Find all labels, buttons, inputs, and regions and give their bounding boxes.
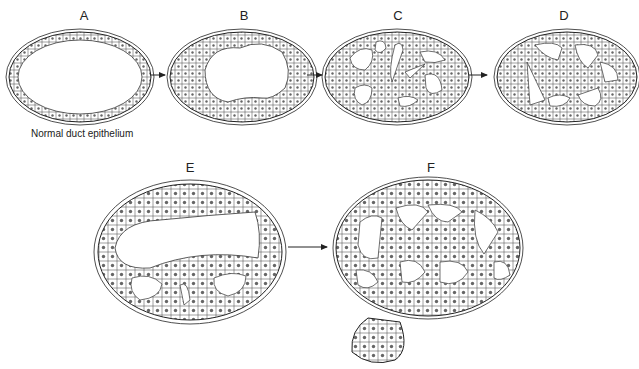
panel-d-label: D (554, 8, 574, 23)
panel-f-label: F (421, 160, 441, 175)
panel-b (167, 29, 317, 125)
panel-c (322, 29, 472, 125)
duct-progression-diagram (0, 0, 639, 369)
panel-e (94, 180, 286, 324)
panel-b-label: B (234, 8, 254, 23)
panel-f (333, 177, 523, 363)
panel-a (6, 29, 154, 125)
panel-a-caption: Normal duct epithelium (31, 128, 133, 139)
panel-d (494, 29, 639, 125)
panel-e-label: E (180, 160, 200, 175)
panel-c-label: C (388, 8, 408, 23)
panel-a-label: A (74, 8, 94, 23)
